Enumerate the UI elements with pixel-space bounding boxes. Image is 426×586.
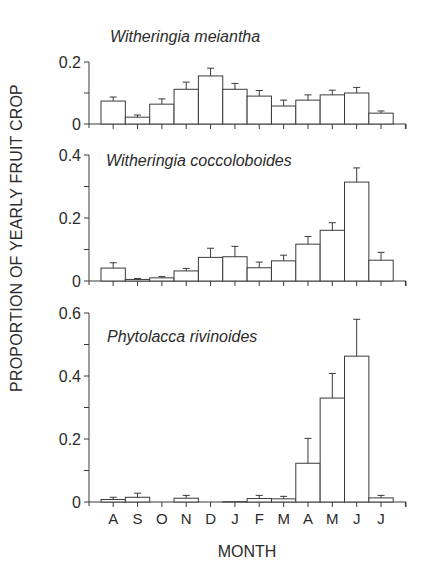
month-label: M	[326, 510, 339, 527]
bar-N	[174, 271, 198, 281]
bar-S	[125, 497, 149, 502]
bar-J	[369, 113, 393, 124]
bar-J	[223, 89, 247, 124]
chart-panels: 00.2Witheringia meiantha00.20.4Withering…	[59, 28, 406, 511]
bar-F	[247, 268, 271, 281]
bar-J	[223, 257, 247, 281]
month-label: M	[277, 510, 290, 527]
bar-D	[198, 76, 222, 124]
bar-J	[345, 182, 369, 281]
bar-N	[174, 498, 198, 502]
y-tick-label: 0.2	[59, 210, 81, 227]
y-tick-label: 0.2	[59, 431, 81, 448]
month-label: S	[133, 510, 143, 527]
month-label: J	[231, 510, 239, 527]
x-axis-label: MONTH	[218, 543, 277, 561]
bar-S	[125, 279, 149, 281]
bar-O	[150, 104, 174, 124]
bar-N	[174, 89, 198, 124]
bar-O	[150, 278, 174, 281]
month-label: N	[181, 510, 192, 527]
bar-A	[296, 244, 320, 281]
bar-A	[296, 100, 320, 124]
bar-A	[101, 268, 125, 281]
bar-M	[271, 261, 295, 281]
bar-A	[101, 499, 125, 502]
bar-M	[320, 230, 344, 281]
y-tick-label: 0.4	[59, 368, 81, 385]
panel-title: Witheringia meiantha	[110, 28, 260, 45]
bar-F	[247, 96, 271, 124]
panel-3: 00.20.40.6Phytolacca rivinoides	[59, 305, 406, 511]
month-label: F	[255, 510, 264, 527]
figure-canvas: 00.2Witheringia meiantha00.20.4Withering…	[0, 0, 426, 586]
y-tick-label: 0.6	[59, 305, 81, 322]
bar-A	[296, 463, 320, 502]
month-label: A	[108, 510, 118, 527]
y-axis-label: PROPORTION OF YEARLY FRUIT CROP	[8, 84, 26, 392]
bar-D	[198, 257, 222, 281]
y-tick-label: 0.4	[59, 147, 81, 164]
bar-J	[345, 93, 369, 124]
month-label: J	[353, 510, 361, 527]
panel-title: Witheringia coccoloboides	[106, 152, 292, 169]
panel-title: Phytolacca rivinoides	[107, 328, 257, 345]
panel-2: 00.20.4Witheringia coccoloboides	[59, 147, 406, 290]
bar-F	[247, 499, 271, 502]
bar-J	[345, 356, 369, 502]
month-label: J	[377, 510, 385, 527]
bar-M	[320, 95, 344, 124]
panel-1: 00.2Witheringia meiantha	[59, 28, 406, 133]
y-tick-label: 0	[72, 273, 81, 290]
bar-A	[101, 101, 125, 124]
bar-M	[271, 106, 295, 124]
month-label: A	[303, 510, 313, 527]
bar-J	[369, 260, 393, 281]
y-tick-label: 0	[72, 494, 81, 511]
month-label: D	[205, 510, 216, 527]
month-axis-labels: ASONDJFMAMJJ	[108, 510, 385, 527]
bar-J	[369, 498, 393, 502]
bar-S	[125, 117, 149, 124]
y-tick-label: 0	[72, 116, 81, 133]
bar-M	[320, 398, 344, 502]
month-label: O	[156, 510, 168, 527]
y-tick-label: 0.2	[59, 54, 81, 71]
bar-M	[271, 499, 295, 502]
